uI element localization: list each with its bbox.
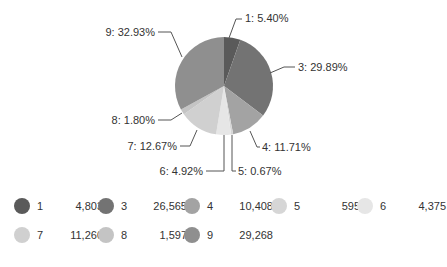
legend-value: 595 (314, 200, 360, 212)
legend-value: 11,260 (57, 229, 103, 241)
slice-label: 4: 11.71% (262, 141, 311, 153)
slice-label: 7: 12.67% (127, 140, 177, 152)
slice-label: 1: 5.40% (245, 12, 289, 24)
legend-item-7[interactable]: 7 11,260 (14, 225, 103, 245)
legend-key: 9 (207, 229, 227, 241)
slice-label: 5: 0.67% (238, 165, 282, 177)
legend-swatch-6 (357, 198, 373, 214)
leader-line (180, 130, 197, 146)
legend-value: 4,803 (57, 200, 103, 212)
leader-line (229, 19, 242, 38)
legend-swatch-1 (14, 198, 30, 214)
leader-line (206, 135, 224, 171)
legend-swatch-9 (184, 227, 200, 243)
legend-key: 3 (121, 200, 141, 212)
legend-value: 29,268 (227, 229, 273, 241)
legend-value: 26,565 (141, 200, 187, 212)
legend-key: 5 (294, 200, 314, 212)
pie-chart: 1: 5.40%3: 29.89%4: 11.71%5: 0.67%6: 4.9… (0, 0, 447, 190)
legend-item-6[interactable]: 6 4,375 (357, 196, 446, 216)
legend-key: 8 (121, 229, 141, 241)
legend-item-8[interactable]: 8 1,597 (98, 225, 187, 245)
leader-line (158, 113, 182, 120)
leader-line (270, 67, 295, 73)
legend-value: 1,597 (141, 229, 187, 241)
slice-label: 8: 1.80% (112, 114, 156, 126)
legend-value: 10,408 (227, 200, 273, 212)
slice-label: 9: 32.93% (105, 26, 155, 38)
legend-value: 4,375 (400, 200, 446, 212)
legend-item-4[interactable]: 4 10,408 (184, 196, 273, 216)
legend-swatch-5 (271, 198, 287, 214)
slice-label: 6: 4.92% (160, 165, 204, 177)
legend-item-3[interactable]: 3 26,565 (98, 196, 187, 216)
legend-swatch-4 (184, 198, 200, 214)
legend-item-1[interactable]: 1 4,803 (14, 196, 103, 216)
leader-line (250, 131, 260, 147)
legend-swatch-8 (98, 227, 114, 243)
legend-item-9[interactable]: 9 29,268 (184, 225, 273, 245)
leader-line (158, 32, 182, 57)
legend-key: 7 (37, 229, 57, 241)
legend-swatch-7 (14, 227, 30, 243)
legend-key: 4 (207, 200, 227, 212)
legend-key: 1 (37, 200, 57, 212)
slice-label: 3: 29.89% (298, 61, 348, 73)
leader-line (232, 135, 236, 171)
legend-swatch-3 (98, 198, 114, 214)
legend-item-5[interactable]: 5 595 (271, 196, 360, 216)
legend-key: 6 (380, 200, 400, 212)
